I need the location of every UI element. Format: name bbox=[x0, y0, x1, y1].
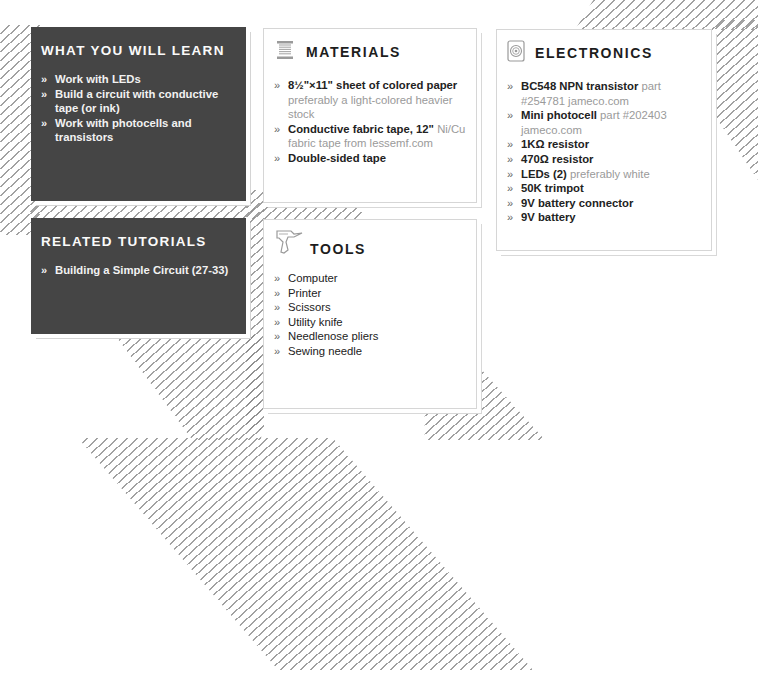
what-you-will-learn-title: WHAT YOU WILL LEARN bbox=[41, 43, 236, 58]
spool-icon bbox=[274, 39, 296, 64]
bullet-icon: » bbox=[274, 271, 280, 286]
bullet-icon: » bbox=[507, 79, 513, 94]
list-item: »Sewing needle bbox=[274, 344, 466, 359]
electronics-header: ELECTRONICS bbox=[507, 40, 701, 65]
list-item: »Utility knife bbox=[274, 315, 466, 330]
materials-header: MATERIALS bbox=[274, 39, 466, 64]
tools-header: TOOLS bbox=[274, 228, 466, 259]
list-item: »Scissors bbox=[274, 300, 466, 315]
list-item: »470Ω resistor bbox=[507, 152, 701, 167]
list-item: »1KΩ resistor bbox=[507, 137, 701, 152]
list-item: »BC548 NPN transistor part #254781 jamec… bbox=[507, 79, 701, 108]
what-you-will-learn-card: WHAT YOU WILL LEARN »Work with LEDs »Bui… bbox=[31, 27, 246, 201]
materials-card: MATERIALS »8½"×11" sheet of colored pape… bbox=[263, 28, 477, 203]
bullet-icon: » bbox=[507, 108, 513, 123]
bullet-icon: » bbox=[41, 72, 47, 87]
related-tutorials-list: »Building a Simple Circuit (27-33) bbox=[41, 263, 236, 278]
list-item: »9V battery bbox=[507, 210, 701, 225]
speaker-icon bbox=[507, 40, 525, 65]
bullet-icon: » bbox=[274, 122, 280, 137]
bullet-icon: » bbox=[41, 87, 47, 102]
bullet-icon: » bbox=[507, 196, 513, 211]
list-item: »Double-sided tape bbox=[274, 151, 466, 166]
tools-list: »Computer »Printer »Scissors »Utility kn… bbox=[274, 271, 466, 359]
tools-card: TOOLS »Computer »Printer »Scissors »Util… bbox=[263, 219, 477, 409]
materials-title: MATERIALS bbox=[306, 44, 401, 60]
bullet-icon: » bbox=[274, 315, 280, 330]
bullet-icon: » bbox=[41, 116, 47, 131]
related-tutorial-link[interactable]: »Building a Simple Circuit (27-33) bbox=[41, 263, 236, 278]
bullet-icon: » bbox=[274, 286, 280, 301]
list-item: »Work with LEDs bbox=[41, 72, 236, 87]
bullet-icon: » bbox=[507, 137, 513, 152]
electronics-card: ELECTRONICS »BC548 NPN transistor part #… bbox=[496, 29, 712, 251]
materials-list: »8½"×11" sheet of colored paper preferab… bbox=[274, 78, 466, 166]
bullet-icon: » bbox=[274, 151, 280, 166]
electronics-title: ELECTRONICS bbox=[535, 45, 653, 61]
hatch-pattern-between-mid-cards bbox=[262, 203, 362, 219]
bullet-icon: » bbox=[274, 344, 280, 359]
tools-title: TOOLS bbox=[310, 241, 366, 257]
bullet-icon: » bbox=[274, 329, 280, 344]
bullet-icon: » bbox=[507, 167, 513, 182]
hatch-pattern-bottom-parallelogram bbox=[78, 438, 533, 670]
drill-icon bbox=[274, 228, 304, 259]
list-item: »Conductive fabric tape, 12" Ni/Cu fabri… bbox=[274, 122, 466, 151]
list-item: »Computer bbox=[274, 271, 466, 286]
bullet-icon: » bbox=[507, 181, 513, 196]
list-item: »Build a circuit with conductive tape (o… bbox=[41, 87, 236, 116]
list-item: »8½"×11" sheet of colored paper preferab… bbox=[274, 78, 466, 122]
related-tutorials-card: RELATED TUTORIALS »Building a Simple Cir… bbox=[31, 218, 246, 334]
bullet-icon: » bbox=[507, 152, 513, 167]
hatch-pattern-right bbox=[715, 20, 758, 180]
list-item: »Work with photocells and transistors bbox=[41, 116, 236, 145]
list-item: »LEDs (2) preferably white bbox=[507, 167, 701, 182]
what-you-will-learn-list: »Work with LEDs »Build a circuit with co… bbox=[41, 72, 236, 145]
related-tutorials-title: RELATED TUTORIALS bbox=[41, 234, 236, 249]
hatch-pattern-between-left-cards bbox=[30, 203, 260, 219]
list-item: »50K trimpot bbox=[507, 181, 701, 196]
bullet-icon: » bbox=[274, 300, 280, 315]
list-item: »Needlenose pliers bbox=[274, 329, 466, 344]
bullet-icon: » bbox=[507, 210, 513, 225]
list-item: »9V battery connector bbox=[507, 196, 701, 211]
electronics-list: »BC548 NPN transistor part #254781 jamec… bbox=[507, 79, 701, 225]
bullet-icon: » bbox=[41, 263, 47, 278]
bullet-icon: » bbox=[274, 78, 280, 93]
list-item: »Mini photocell part #202403 jameco.com bbox=[507, 108, 701, 137]
list-item: »Printer bbox=[274, 286, 466, 301]
